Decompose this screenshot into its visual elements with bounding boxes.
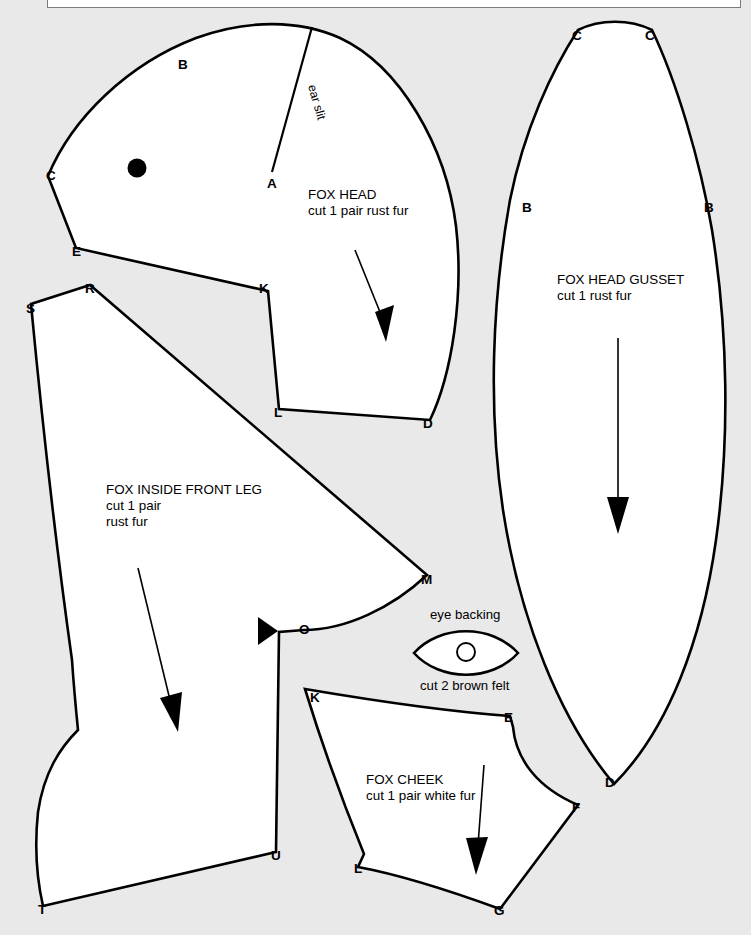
fox-inside-front-leg-cut-note-1: cut 1 pair [106, 498, 162, 513]
fox-head-gusset-outline [494, 22, 726, 784]
vertex-label-cheek-G: G [494, 903, 505, 918]
vertex-label-B: B [178, 57, 188, 72]
vertex-label-gusset-B-right: B [704, 200, 714, 215]
vertex-label-gusset-C-left: C [572, 28, 582, 43]
vertex-label-leg-U: U [271, 848, 281, 863]
eye-placement-dot [128, 159, 147, 178]
vertex-label-leg-O: O [299, 622, 310, 637]
fox-head-gusset-title: FOX HEAD GUSSET [557, 272, 684, 287]
piece-eye-backing[interactable]: eye backing cut 2 brown felt [414, 607, 518, 693]
vertex-label-gusset-C-right: C [645, 28, 655, 43]
vertex-label-cheek-E: E [504, 710, 513, 725]
piece-fox-cheek[interactable]: K E F G L FOX CHEEK cut 1 pair white fur [305, 689, 580, 918]
fox-cheek-title: FOX CHEEK [366, 772, 443, 787]
fox-head-cut-note: cut 1 pair rust fur [308, 203, 409, 218]
vertex-label-A: A [267, 176, 277, 191]
fox-head-gusset-cut-note: cut 1 rust fur [557, 288, 632, 303]
vertex-label-cheek-L: L [354, 861, 362, 876]
vertex-label-leg-T: T [38, 902, 47, 917]
vertex-label-leg-S: S [26, 301, 35, 316]
vertex-label-D: D [423, 416, 433, 431]
fox-inside-front-leg-cut-note-2: rust fur [106, 514, 148, 529]
vertex-label-gusset-D: D [605, 775, 615, 790]
vertex-label-gusset-B-left: B [522, 200, 532, 215]
vertex-label-cheek-F: F [572, 800, 580, 815]
eye-backing-title: eye backing [430, 607, 500, 622]
fox-inside-front-leg-title: FOX INSIDE FRONT LEG [106, 482, 262, 497]
fox-head-title: FOX HEAD [308, 187, 377, 202]
vertex-label-cheek-K: K [310, 690, 320, 705]
pattern-sheet: A B C E K L D ear slit FOX HEAD cut 1 pa… [0, 0, 751, 935]
vertex-label-leg-M: M [421, 572, 432, 587]
eye-backing-center-hole [457, 643, 475, 661]
vertex-label-C: C [46, 168, 56, 183]
vertex-label-E: E [72, 244, 81, 259]
eye-backing-cut-note: cut 2 brown felt [420, 678, 510, 693]
vertex-label-K: K [259, 281, 269, 296]
pattern-drawing: A B C E K L D ear slit FOX HEAD cut 1 pa… [0, 0, 751, 935]
vertex-label-L: L [274, 405, 282, 420]
vertex-label-leg-R: R [85, 281, 95, 296]
fox-cheek-cut-note: cut 1 pair white fur [366, 788, 476, 803]
piece-fox-head-gusset[interactable]: C C B B D FOX HEAD GUSSET cut 1 rust fur [494, 22, 726, 790]
